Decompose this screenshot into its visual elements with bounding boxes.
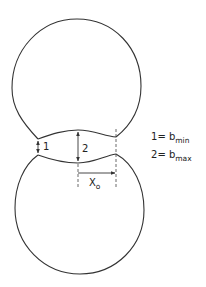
label-xo: Xo — [89, 177, 101, 191]
legend-eq-1: = b — [157, 131, 175, 142]
legend-sub-2: max — [175, 154, 192, 163]
label-2: 2 — [82, 143, 88, 154]
legend: 1= bmin 2= bmax — [151, 131, 192, 163]
neck-upper-curve — [38, 130, 116, 139]
label-1: 1 — [43, 141, 49, 152]
lower-lobe-outline — [15, 154, 144, 274]
diagram-canvas: 1 2 Xo 1= bmin 2= bmax — [0, 0, 206, 287]
upper-lobe-outline — [12, 19, 141, 139]
legend-entry-2: 2= bmax — [151, 149, 192, 163]
legend-sub-1: min — [175, 136, 189, 145]
label-xo-sub: o — [96, 182, 101, 191]
legend-entry-1: 1= bmin — [151, 131, 190, 145]
neck-lower-curve — [38, 154, 116, 163]
legend-eq-2: = b — [157, 149, 175, 160]
